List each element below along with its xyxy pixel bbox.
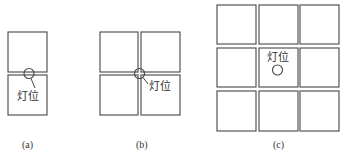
- tile-c-r2c3: [300, 48, 339, 87]
- lamp-label-c: 灯位: [267, 50, 289, 64]
- caption-b: (b): [136, 139, 148, 151]
- panel-c: 灯位 (c): [217, 5, 339, 151]
- tile-b-top-left: [100, 32, 138, 72]
- caption-c: (c): [273, 139, 284, 151]
- lamp-position-diagram: 灯位 (a) 灯位 (b) 灯位 (c): [0, 0, 345, 160]
- tile-c-r1c3: [300, 5, 339, 44]
- tile-a-top: [8, 32, 47, 72]
- tile-c-r1c2: [259, 5, 298, 44]
- tile-c-r1c1: [217, 5, 256, 44]
- lamp-label-a: 灯位: [17, 89, 39, 103]
- panel-a: 灯位 (a): [8, 32, 47, 151]
- tile-b-top-right: [141, 32, 180, 72]
- tile-c-r3c2: [259, 91, 298, 131]
- panel-b: 灯位 (b): [100, 32, 180, 151]
- lamp-circle-icon: [135, 69, 145, 79]
- tile-c-r3c3: [300, 91, 339, 131]
- tile-c-r3c1: [217, 91, 256, 131]
- tile-b-bottom-left: [100, 75, 138, 115]
- caption-a: (a): [22, 139, 33, 151]
- tile-c-r2c1: [217, 48, 256, 87]
- lamp-label-b: 灯位: [149, 79, 171, 93]
